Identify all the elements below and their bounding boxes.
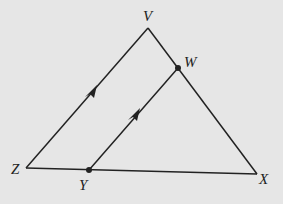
parallel-arrow-icon	[85, 85, 97, 98]
side-vx	[148, 28, 257, 174]
side-zx	[26, 168, 257, 174]
label-v: V	[143, 8, 154, 24]
label-w: W	[184, 54, 198, 70]
label-z: Z	[11, 161, 20, 177]
label-x: X	[258, 171, 269, 187]
segment-yw	[89, 68, 178, 170]
triangle-diagram: V W Z Y X	[0, 0, 283, 204]
point-w-dot	[175, 65, 181, 71]
point-y-dot	[86, 167, 92, 173]
side-zv	[26, 28, 148, 168]
label-y: Y	[79, 177, 89, 193]
